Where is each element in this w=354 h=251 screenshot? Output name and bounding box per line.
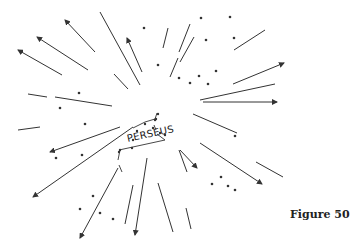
meteor-streak [234, 30, 265, 50]
star-dot [78, 92, 81, 95]
meteor-streak-arrow [80, 168, 118, 238]
meteor-streak [170, 58, 178, 77]
meteor-streak [163, 28, 168, 48]
star-dot [178, 77, 181, 80]
constellation-line [133, 122, 145, 128]
meteor-streak [55, 97, 112, 106]
star-dot [207, 83, 210, 86]
constellation-star [155, 118, 157, 120]
meteor-streak [193, 114, 237, 133]
meteor-streak-arrow [65, 20, 95, 52]
constellation-star [118, 151, 120, 153]
star-dot [81, 154, 84, 157]
star-dot [234, 189, 237, 192]
constellation-line [119, 140, 165, 150]
star-dot [79, 208, 82, 211]
meteor-streak [114, 74, 128, 89]
meteor-streak-arrow [200, 143, 262, 184]
constellation-star [144, 123, 146, 125]
constellation-star [157, 113, 159, 115]
meteor-streak [256, 162, 283, 177]
star-dot [198, 75, 201, 78]
meteor-streak [158, 183, 173, 232]
meteor-streak-arrow [135, 158, 147, 235]
meteor-streak-arrow [233, 63, 284, 84]
constellation-line [145, 119, 155, 122]
star-dot [205, 39, 208, 42]
meteor-streak-arrow [50, 127, 120, 152]
star-dot [112, 218, 115, 221]
meteor-streak [18, 127, 40, 130]
stars [55, 16, 237, 221]
star-dot [92, 195, 95, 198]
star-dot [84, 123, 87, 126]
star-dot [200, 17, 203, 20]
constellation-star [131, 147, 133, 149]
star-dot [227, 185, 230, 188]
star-dot [215, 70, 218, 73]
star-dot [220, 176, 223, 179]
meteor-streak-arrow [18, 50, 62, 75]
star-dot [99, 212, 102, 215]
meteor-streak [186, 208, 191, 229]
star-dot [143, 27, 146, 30]
star-dot [234, 135, 237, 138]
star-dot [211, 183, 214, 186]
meteor-streak [100, 12, 140, 85]
meteor-streak [125, 185, 133, 224]
star-dot [189, 82, 192, 85]
star-dot [229, 16, 232, 19]
meteor-streak-arrow [127, 38, 142, 72]
meteor-streak [28, 94, 47, 97]
star-dot [157, 64, 160, 67]
figure-caption: Figure 50 [290, 208, 350, 221]
star-dot [55, 157, 58, 160]
meteor-streak [180, 37, 194, 62]
meteor-streaks [18, 12, 284, 238]
meteor-streak-arrow [33, 127, 133, 197]
star-dot [233, 37, 236, 40]
perseus-constellation [118, 113, 166, 172]
meteor-streak [200, 84, 275, 100]
star-dot [59, 107, 62, 110]
constellation-line [119, 165, 122, 172]
